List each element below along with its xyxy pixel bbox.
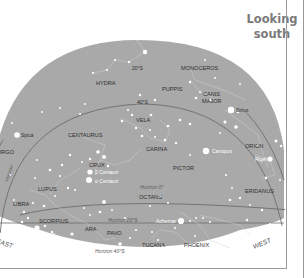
frame-border-bottom [0, 268, 287, 269]
constellation-carina: CARINA [146, 146, 167, 152]
constellation-centaurus: CENTAURUS [68, 132, 103, 138]
title-line-2: south [232, 27, 307, 42]
constellation-monoceros: MONOCEROS [181, 65, 219, 71]
constellation-libra: LIBRA [13, 201, 29, 207]
constellation-canis-major-2: MAJOR [202, 98, 222, 104]
constellation-vela: VELA [136, 117, 151, 123]
label-horizon-40: Horizon 40°S [95, 248, 125, 254]
star-label-spica: Spica [21, 132, 34, 138]
label-zenith: Zenith [130, 23, 145, 29]
constellation-lupus: LUPUS [38, 186, 57, 192]
frame-border-outer [303, 0, 304, 278]
star-spica [14, 132, 20, 138]
star-label-alpha-centauri: α Centauri [95, 178, 118, 184]
constellation-ara: ARA [85, 226, 97, 232]
label-west: WEST [252, 236, 273, 250]
constellation-scorpius: SCORPIUS [39, 218, 68, 224]
chart-title: Looking south [232, 12, 307, 42]
star-canopus [203, 148, 209, 154]
star-label-antares: Antares [38, 231, 56, 237]
constellation-orion: ORION [245, 143, 263, 149]
constellation-tucana: TUCANA [142, 242, 165, 248]
constellation-phoenix: PHOENIX [184, 242, 209, 248]
constellation-pavo: PAVO [107, 230, 122, 236]
constellation-crux: CRUX [89, 162, 105, 168]
star-label-beta-centauri: β Centauri [95, 169, 118, 175]
constellation-puppis: PUPPIS [162, 86, 183, 92]
star-label-achernar: Achernar [156, 218, 177, 224]
constellation-canis-major-1: CANIS [203, 91, 220, 97]
constellation-octans: OCTANS [139, 194, 162, 200]
title-line-1: Looking [232, 12, 307, 27]
star-achernar [178, 218, 184, 224]
frame-border-right [286, 0, 287, 268]
star-rigel [267, 156, 272, 161]
star-label-rigel: Rigel [255, 156, 266, 162]
constellation-eridanus: ERIDANUS [245, 188, 274, 194]
label-east: EAST [0, 237, 15, 249]
star-label-sirius: Sirius [236, 107, 249, 113]
sky-dome [0, 40, 284, 247]
star-label-canopus: Canopus [212, 148, 233, 154]
star-antares [34, 225, 39, 230]
constellation-hydra: HYDRA [96, 80, 116, 86]
label-horizon-20: Horizon 20°S [108, 217, 138, 223]
star-beta-centauri [87, 169, 92, 174]
constellation-virgo: VIRGO [0, 149, 15, 155]
label-alt-40: 40°S [137, 99, 149, 105]
label-horizon-0: Horizon 0° [140, 184, 163, 190]
label-zenith-deg: 0° [134, 30, 139, 36]
star-sirius [228, 107, 234, 113]
star-alpha-centauri [86, 177, 92, 183]
constellation-pictor: PICTOR [173, 165, 194, 171]
label-alt-20: 20°S [132, 65, 144, 71]
